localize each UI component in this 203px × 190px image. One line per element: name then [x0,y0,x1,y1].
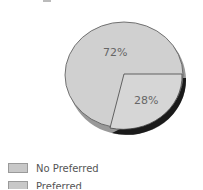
legend: No Preferred Preferred [8,159,99,189]
legend-item-preferred: Preferred [8,177,99,189]
legend-label: No Preferred [36,163,99,174]
legend-label: Preferred [36,181,82,190]
pie-chart: 72% 28% [0,0,203,150]
label-28: 28% [134,94,158,107]
label-72: 72% [103,46,127,59]
legend-item-no-preferred: No Preferred [8,159,99,177]
legend-swatch-preferred [8,181,28,189]
legend-swatch-no-preferred [8,163,28,173]
